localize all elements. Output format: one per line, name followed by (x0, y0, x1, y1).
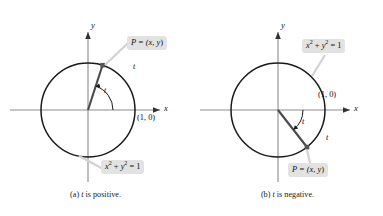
arc-length-t-label: t (133, 62, 135, 71)
leader-line-equation (312, 55, 325, 76)
caption-suffix: is positive. (83, 190, 121, 199)
angle-t-label: t (104, 86, 106, 95)
y-axis-arrowhead (85, 32, 91, 39)
x-axis-arrowhead (153, 107, 160, 113)
circle-equation-callout: x2 + y2 = 1 (302, 39, 345, 53)
panel-a-caption: (a) t is positive. (0, 190, 191, 200)
x-axis-label: x (354, 103, 358, 113)
equation-plus: + (313, 41, 322, 50)
point-p-lead: P = ( (292, 165, 310, 174)
reference-point-label: (1, 0) (318, 90, 336, 100)
leader-line-point-p (105, 43, 128, 65)
x-axis-arrowhead (343, 107, 350, 113)
panel-a-t-positive: y x t t (1, 0) P = (x, y) x2 + y2 = 1 (a… (0, 0, 191, 216)
angle-t-label: t (302, 117, 304, 126)
caption-prefix: (b) (261, 190, 273, 199)
leader-line-point-p (307, 150, 310, 163)
point-p-marker (305, 145, 310, 150)
point-p-marker (100, 63, 105, 68)
point-p-callout: P = (x, y) (288, 163, 328, 177)
point-p-callout: P = (x, y) (127, 36, 167, 50)
reference-point-label: (1, 0) (137, 113, 155, 123)
equation-plus: + (112, 162, 121, 171)
panel-a-graphic (0, 0, 191, 216)
point-p-end: ) (160, 38, 163, 47)
point-p-end: ) (321, 165, 324, 174)
equation-equals: = 1 (328, 41, 341, 50)
unit-circle-figure: y x t t (1, 0) P = (x, y) x2 + y2 = 1 (a… (0, 0, 383, 216)
caption-prefix: (a) (70, 190, 81, 199)
y-axis-label: y (281, 20, 285, 30)
panel-b-caption: (b) t is negative. (192, 190, 383, 200)
equation-equals: = 1 (127, 162, 140, 171)
y-axis-label: y (91, 20, 95, 30)
arc-length-t-label: t (326, 133, 328, 142)
x-axis-label: x (164, 103, 168, 113)
circle-equation-callout: x2 + y2 = 1 (101, 160, 144, 174)
y-axis-arrowhead (275, 32, 281, 39)
panel-b-t-negative: y x t t (1, 0) x2 + y2 = 1 P = (x, y) (b… (192, 0, 383, 216)
point-p-lead: P = ( (131, 38, 149, 47)
caption-suffix: is negative. (275, 190, 314, 199)
